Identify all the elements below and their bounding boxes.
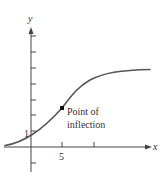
annotation-line-2: inflection bbox=[67, 119, 105, 130]
logistic-chart: y x 5 1 Point of inflection bbox=[0, 0, 166, 183]
x-axis-arrow-icon bbox=[145, 145, 152, 150]
x-tick-label-5: 5 bbox=[59, 151, 64, 162]
y-axis-arrow-icon bbox=[29, 27, 34, 34]
x-ticks bbox=[62, 142, 94, 147]
x-axis-label: x bbox=[152, 141, 158, 152]
y-axis-label: y bbox=[27, 13, 33, 24]
annotation-line-1: Point of bbox=[67, 106, 100, 117]
axes bbox=[4, 32, 148, 172]
y-tick-label-1: 1 bbox=[24, 128, 29, 139]
y-ticks bbox=[31, 36, 36, 163]
inflection-point-marker bbox=[60, 106, 64, 110]
